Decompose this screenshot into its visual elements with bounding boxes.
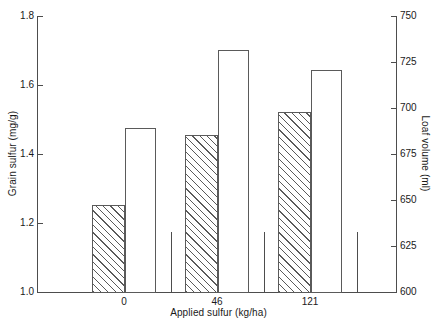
bar-grain-sulfur-46 [185,135,218,293]
y-axis-right-tick [391,246,396,247]
y-axis-left-tick [38,223,43,224]
y-axis-left-title: Grain sulfur (mg/g) [7,94,18,214]
y-axis-left-tick-label: 1.6 [0,79,34,90]
y-axis-left-tick [38,85,43,86]
y-axis-left-tick [38,292,43,293]
y-axis-right-tick-label: 625 [400,240,434,251]
y-axis-left-tick [38,154,43,155]
y-axis-left-tick-label: 1.2 [0,217,34,228]
y-axis-right-line [396,16,397,293]
x-axis-tick-label: 0 [104,296,144,307]
y-axis-left-tick-label: 1.0 [0,286,34,297]
y-axis-right-tick-label: 725 [400,56,434,67]
bar-grain-sulfur-0 [92,205,125,293]
group-separator [171,232,172,292]
bar-loaf-volume-46 [218,50,249,293]
x-axis-tick-label: 46 [197,296,237,307]
bar-chart-figure: 1.0 1.2 1.4 1.6 1.8 600 625 650 675 700 … [0,0,437,325]
bar-grain-sulfur-121 [278,112,311,293]
y-axis-right-tick [391,108,396,109]
y-axis-right-tick [391,154,396,155]
group-separator [264,232,265,292]
y-axis-right-tick-label: 600 [400,286,434,297]
bar-loaf-volume-0 [125,128,156,293]
y-axis-right-title: Loaf volume (ml) [420,94,431,214]
y-axis-left-tick [38,16,43,17]
x-axis-tick-label: 121 [290,296,330,307]
x-axis-title: Applied sulfur (kg/ha) [0,307,437,318]
bar-loaf-volume-121 [311,70,342,293]
y-axis-right-tick [391,62,396,63]
y-axis-right-tick [391,292,396,293]
y-axis-right-tick [391,200,396,201]
y-axis-right-tick [391,16,396,17]
y-axis-right-tick-label: 750 [400,10,434,21]
group-separator [357,232,358,292]
y-axis-left-tick-label: 1.8 [0,10,34,21]
